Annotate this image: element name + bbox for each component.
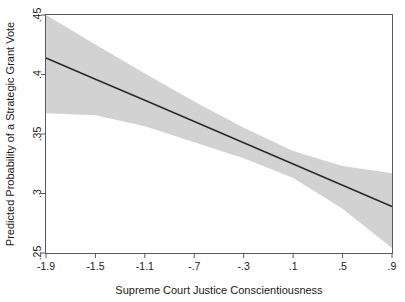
y-axis-title: Predicted Probability of a Strategic Gra… — [4, 22, 16, 246]
x-tick-label-2: -1.1 — [136, 260, 154, 272]
x-tick-label-6: .5 — [338, 260, 347, 272]
y-tick-label-1: .3 — [31, 189, 43, 198]
y-tick-label-0: .25 — [31, 246, 43, 261]
y-tick-label-4: .45 — [31, 8, 43, 23]
x-tick-label-5: .1 — [289, 260, 298, 272]
x-tick-label-7: .9 — [388, 260, 397, 272]
chart-figure: -1.9-1.5-1.1-.7-.3.1.5.9 .25.3.35.4.45 S… — [0, 0, 405, 302]
chart-canvas: -1.9-1.5-1.1-.7-.3.1.5.9 .25.3.35.4.45 S… — [0, 0, 405, 302]
y-tick-label-2: .35 — [31, 127, 43, 142]
x-tick-label-3: -.7 — [188, 260, 200, 272]
y-tick-label-3: .4 — [31, 70, 43, 79]
x-axis-title: Supreme Court Justice Conscientiousness — [115, 284, 323, 296]
x-tick-label-1: -1.5 — [86, 260, 104, 272]
x-tick-label-0: -1.9 — [37, 260, 55, 272]
x-tick-label-4: -.3 — [238, 260, 250, 272]
